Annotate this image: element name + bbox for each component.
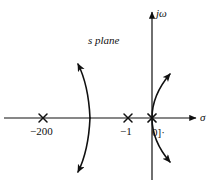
pole-label-200: −200	[30, 126, 53, 137]
locus-branch-left-lower	[78, 118, 90, 172]
locus-branch-right-lower	[152, 118, 170, 162]
real-axis-label: σ	[200, 112, 205, 123]
locus-branch-right-upper	[152, 74, 170, 118]
pole-label-1: −1	[120, 126, 132, 137]
s-plane-label: s plane	[88, 35, 119, 46]
locus-branch-left-upper	[78, 64, 90, 118]
plot-canvas	[0, 0, 216, 184]
origin-label: 0]·	[152, 127, 165, 138]
imaginary-axis-label: jω	[156, 8, 167, 19]
root-locus-figure: s plane jω σ −200 −1 0]·	[0, 0, 216, 184]
